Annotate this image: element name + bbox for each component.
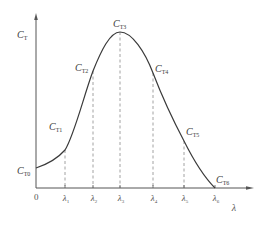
tick-label-lambda2: λ2 [91, 194, 97, 204]
dashed-guides [65, 32, 184, 188]
y-axis-arrow-icon [34, 13, 38, 20]
curve-diagram: CT CT0 CT1 CT2 CT3 CT4 CT5 CT6 0 λ1 λ2 λ… [0, 0, 271, 225]
point-label-ct0: CT0 [17, 166, 30, 177]
point-label-ct4: CT4 [155, 64, 168, 75]
response-curve [36, 32, 215, 188]
y-axis-label: CT [17, 30, 27, 41]
point-label-ct3: CT3 [113, 19, 126, 30]
tick-label-lambda6: λ6 [213, 194, 219, 204]
point-label-ct5: CT5 [186, 127, 199, 138]
tick-label-lambda4: λ4 [151, 194, 157, 204]
tick-label-lambda3: λ3 [118, 194, 124, 204]
x-axis-label: λ [232, 203, 236, 213]
point-label-ct2: CT2 [75, 63, 88, 74]
diagram-canvas [0, 0, 271, 225]
origin-label: 0 [34, 193, 39, 202]
x-axis-arrow-icon [246, 186, 254, 190]
point-label-ct1: CT1 [49, 122, 62, 133]
tick-label-lambda5: λ5 [182, 194, 188, 204]
tick-label-lambda1: λ1 [63, 194, 69, 204]
point-label-ct6: CT6 [216, 175, 229, 186]
